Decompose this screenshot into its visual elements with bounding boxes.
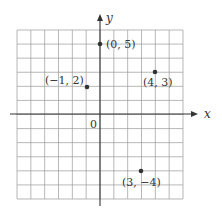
point-label-4-3: (4, 3) <box>143 76 173 89</box>
point-4-3 <box>153 70 158 75</box>
origin-label: 0 <box>90 118 97 131</box>
point-label-0-5: (0, 5) <box>106 38 136 51</box>
point-label-3-neg4: (3, −4) <box>122 176 161 189</box>
y-axis-arrow-icon <box>97 14 103 21</box>
point-label-neg1-2: (−1, 2) <box>45 74 84 87</box>
coordinate-plane: x y 0 (0, 5) (4, 3) (−1, 2) (3, −4) <box>0 0 222 215</box>
axes <box>10 14 198 206</box>
point-3-neg4 <box>139 169 144 174</box>
x-axis-arrow-icon <box>191 111 198 117</box>
point-0-5 <box>98 42 103 47</box>
y-axis-label: y <box>105 11 113 25</box>
x-axis-label: x <box>204 107 211 121</box>
point-neg1-2 <box>85 85 90 90</box>
